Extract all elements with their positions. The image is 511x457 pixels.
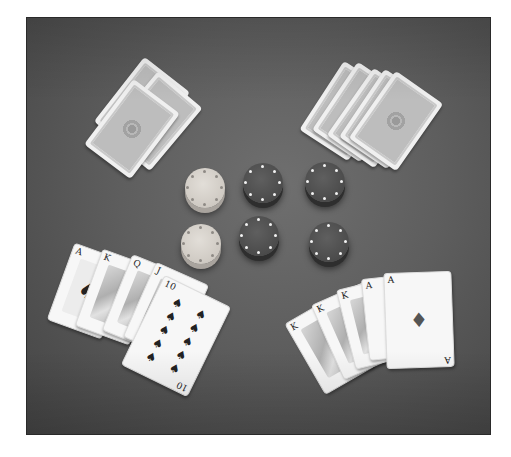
poker-chip-light (185, 168, 225, 208)
poker-chip-dark (309, 222, 349, 262)
poker-chip-light (181, 224, 221, 264)
poker-chip-dark (243, 163, 283, 203)
poker-table-photo: A ♠ K Q J 10 ♠ ♠ ♠ ♠ ♠ ♠ ♠ ♠ ♠ ♠ 10 K (26, 17, 491, 435)
playing-card: A ♦ A (383, 271, 454, 369)
poker-chip-dark (239, 216, 279, 256)
poker-chip-dark (305, 162, 345, 202)
